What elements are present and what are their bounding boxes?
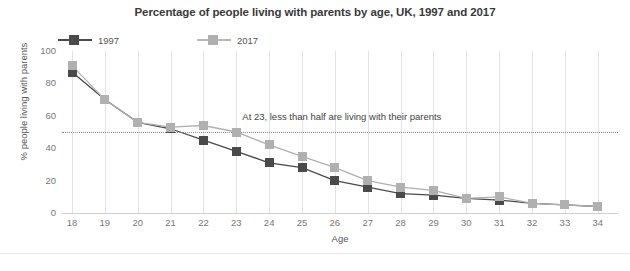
data-point-marker [560,200,569,209]
data-point-marker [528,199,537,208]
y-tick-label: 40 [30,143,56,153]
data-point-marker [363,176,372,185]
data-point-marker [100,95,109,104]
chart-annotation: At 23, less than half are living with th… [242,111,441,122]
x-tick-label: 19 [92,217,118,228]
data-point-marker [298,152,307,161]
data-point-marker [495,192,504,201]
x-axis-line [62,213,618,214]
data-point-marker [462,194,471,203]
data-point-marker [265,140,274,149]
y-tick-label: 100 [30,46,56,56]
x-tick-label: 28 [388,217,414,228]
legend-item-2017[interactable]: 2017 [197,32,258,48]
reference-line-50 [62,132,618,133]
legend-swatch-2017 [197,39,231,41]
x-tick-label: 22 [190,217,216,228]
x-tick-label: 21 [158,217,184,228]
y-tick-label: 20 [30,176,56,186]
plot-area [62,51,618,213]
data-point-marker [232,128,241,137]
x-tick-label: 29 [420,217,446,228]
legend-swatch-1997 [58,39,92,41]
data-point-marker [199,136,208,145]
y-tick-label: 0 [30,208,56,218]
chart-container: Percentage of people living with parents… [0,0,630,271]
x-tick-label: 24 [256,217,282,228]
x-tick-label: 20 [125,217,151,228]
legend-label-2017: 2017 [237,35,258,46]
data-point-marker [429,186,438,195]
x-tick-label: 32 [519,217,545,228]
x-tick-label: 23 [223,217,249,228]
x-tick-label: 30 [453,217,479,228]
x-axis-title: Age [62,233,618,244]
y-axis-ticks: 020406080100 [26,51,56,213]
data-point-marker [265,158,274,167]
x-tick-label: 18 [59,217,85,228]
x-tick-label: 27 [355,217,381,228]
data-point-marker [166,123,175,132]
x-tick-label: 33 [552,217,578,228]
data-point-marker [199,121,208,130]
data-point-marker [232,147,241,156]
data-point-marker [593,202,602,211]
x-tick-label: 26 [322,217,348,228]
footer-divider [0,253,630,254]
y-axis-title: % people living with parents [18,17,29,187]
data-point-marker [330,176,339,185]
data-point-marker [330,163,339,172]
y-tick-label: 60 [30,111,56,121]
data-point-marker [396,183,405,192]
data-point-marker [298,163,307,172]
x-tick-label: 34 [585,217,611,228]
y-tick-label: 80 [30,78,56,88]
x-tick-label: 31 [486,217,512,228]
x-tick-label: 25 [289,217,315,228]
legend-label-1997: 1997 [98,35,119,46]
data-point-marker [68,61,77,70]
chart-title: Percentage of people living with parents… [0,6,630,18]
data-point-marker [133,118,142,127]
legend-item-1997[interactable]: 1997 [58,32,119,48]
